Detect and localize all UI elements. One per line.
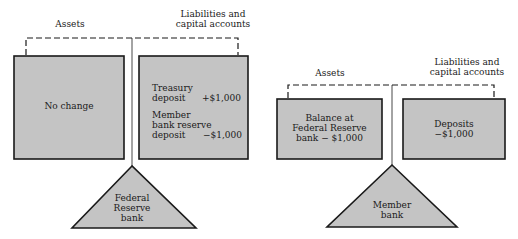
right-assets-box-line2: Federal Reserve: [277, 123, 382, 133]
left-liabilities-box: [139, 56, 248, 159]
right-fulcrum-line1: Member: [362, 200, 422, 210]
right-liabilities-heading-line1: Liabilities and: [412, 57, 518, 67]
member-reserve-label-line1: Member: [152, 110, 190, 120]
right-liabilities-heading-line2: capital accounts: [412, 67, 518, 77]
left-fulcrum-line1: Federal: [102, 193, 162, 203]
left-assets-heading: Assets: [40, 19, 100, 29]
right-assets-box-line3: bank − $1,000: [277, 133, 382, 143]
member-reserve-label-line2: bank reserve: [152, 120, 212, 130]
right-fulcrum-line2: bank: [362, 210, 422, 220]
left-assets-box-text: No change: [14, 101, 124, 111]
right-assets-heading: Assets: [300, 68, 360, 78]
member-reserve-value: −$1,000: [203, 130, 242, 140]
right-liabilities-box-line2: −$1,000: [403, 129, 505, 139]
left-liabilities-heading-line2: capital accounts: [158, 19, 268, 29]
left-fulcrum-line3: bank: [102, 213, 162, 223]
treasury-deposit-label-line1: Treasury: [152, 83, 193, 93]
right-assets-box-line1: Balance at: [277, 113, 382, 123]
treasury-deposit-label-line2: deposit: [152, 93, 185, 103]
left-fulcrum-line2: Reserve: [102, 203, 162, 213]
left-liabilities-heading-line1: Liabilities and: [158, 9, 268, 19]
right-liabilities-box-line1: Deposits: [403, 119, 505, 129]
member-reserve-label-line3: deposit: [152, 130, 185, 140]
treasury-deposit-value: +$1,000: [202, 93, 241, 103]
right-dashed-bracket: [288, 85, 494, 98]
